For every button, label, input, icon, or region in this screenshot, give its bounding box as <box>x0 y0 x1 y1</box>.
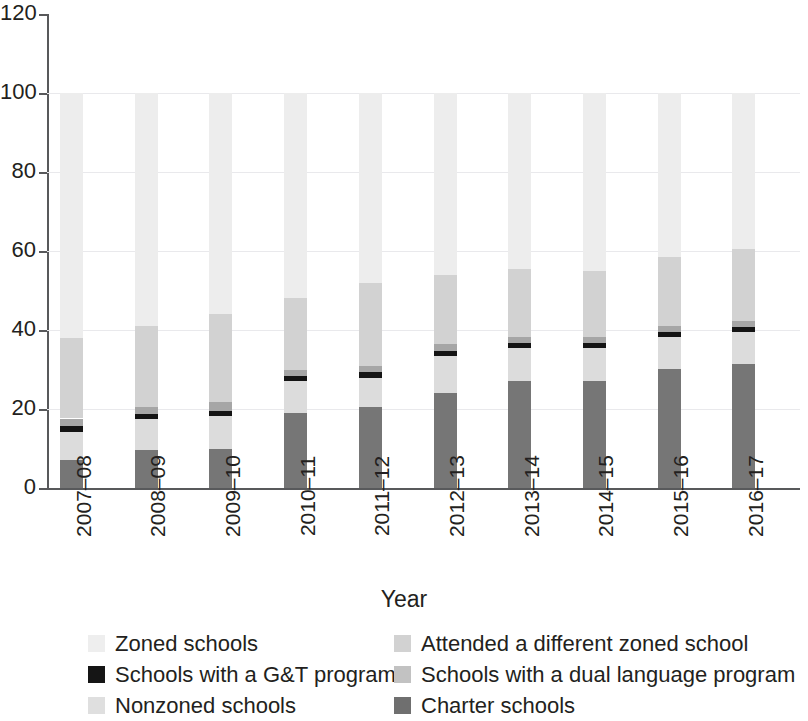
legend-label: Zoned schools <box>115 632 258 656</box>
bar-segment-attended <box>732 249 755 321</box>
x-axis-tick-label: 2010–11 <box>284 496 307 588</box>
x-axis-tick-text: 2008–09 <box>146 455 169 537</box>
legend-label: Attended a different zoned school <box>421 632 748 656</box>
bar-segment-nonzoned <box>583 348 606 381</box>
stacked-bar <box>583 93 606 488</box>
x-axis-tick-label: 2014–15 <box>583 496 606 588</box>
bar-segment-attended <box>583 271 606 337</box>
bar-segment-dual <box>135 407 158 414</box>
bar-segment-zoned <box>583 93 606 271</box>
stacked-bar <box>508 93 531 488</box>
legend-label: Nonzoned schools <box>115 694 296 718</box>
bar-segment-gt <box>209 411 232 416</box>
bar-segment-dual <box>508 337 531 343</box>
y-axis-tick-label: 0 <box>0 476 36 498</box>
x-axis-tick-text: 2015–16 <box>669 455 692 537</box>
bar-segment-attended <box>209 314 232 402</box>
stacked-bar <box>284 93 307 488</box>
x-axis-tick-label: 2009–10 <box>209 496 232 588</box>
x-axis-tick-label: 2011–12 <box>359 496 382 588</box>
bar-segment-zoned <box>284 93 307 298</box>
bar-segment-attended <box>135 326 158 407</box>
x-axis-tick-text: 2016–17 <box>744 455 767 537</box>
x-axis-tick-text: 2007–08 <box>72 455 95 537</box>
bar-segment-zoned <box>359 93 382 283</box>
bar-segment-zoned <box>658 93 681 257</box>
stacked-bar <box>135 93 158 488</box>
bar-segment-gt <box>658 332 681 337</box>
x-axis-tick-label: 2008–09 <box>135 496 158 588</box>
x-axis-tick-text: 2011–12 <box>370 456 393 536</box>
stacked-bar <box>60 93 83 488</box>
x-axis-tick-text: 2009–10 <box>221 455 244 537</box>
bar-segment-gt <box>732 327 755 332</box>
legend-item: Nonzoned schools <box>88 694 394 718</box>
bar-segment-zoned <box>508 93 531 269</box>
bar-segment-nonzoned <box>284 381 307 413</box>
chart-legend: Zoned schoolsAttended a different zoned … <box>88 628 798 721</box>
x-axis-title: Year <box>0 586 808 613</box>
bar-segment-nonzoned <box>658 337 681 369</box>
bar-segment-zoned <box>209 93 232 314</box>
legend-label: Schools with a G&T program <box>115 663 396 687</box>
x-axis-tick-label: 2015–16 <box>658 496 681 588</box>
chart-figure: 020406080100120 2007–082008–092009–10201… <box>0 0 808 721</box>
y-axis-tick-label: 80 <box>0 160 36 182</box>
bar-segment-attended <box>658 257 681 326</box>
legend-swatch-attended <box>394 635 411 652</box>
bar-segment-nonzoned <box>209 416 232 450</box>
bar-segment-gt <box>508 343 531 348</box>
legend-item: Schools with a G&T program <box>88 663 394 687</box>
legend-item: Zoned schools <box>88 632 394 656</box>
x-axis-tick-label: 2013–14 <box>508 496 531 588</box>
stacked-bar <box>359 93 382 488</box>
bar-segment-gt <box>583 343 606 348</box>
bar-segment-zoned <box>60 93 83 338</box>
y-axis-tick-mark <box>39 488 48 490</box>
bar-segment-gt <box>359 372 382 378</box>
bar-segment-gt <box>284 376 307 382</box>
bar-segment-dual <box>434 344 457 351</box>
legend-swatch-nonzoned <box>88 697 105 714</box>
bar-segment-dual <box>732 321 755 327</box>
x-axis-tick-text: 2013–14 <box>520 455 543 537</box>
x-axis-tick-label: 2012–13 <box>434 496 457 588</box>
gridline <box>47 172 800 173</box>
bar-segment-nonzoned <box>508 348 531 382</box>
bar-segment-attended <box>508 269 531 337</box>
x-axis-tick-text: 2014–15 <box>594 455 617 537</box>
legend-swatch-zoned <box>88 635 105 652</box>
legend-swatch-dual <box>394 666 411 683</box>
x-axis-tick-label: 2007–08 <box>60 496 83 588</box>
bar-segment-attended <box>359 283 382 367</box>
bar-segment-zoned <box>434 93 457 275</box>
bar-segment-nonzoned <box>135 419 158 451</box>
bar-segment-nonzoned <box>359 378 382 407</box>
bar-segment-nonzoned <box>732 332 755 364</box>
legend-swatch-charter <box>394 697 411 714</box>
legend-label: Schools with a dual language program <box>421 663 795 687</box>
y-axis-tick-label: 60 <box>0 239 36 261</box>
bar-segment-attended <box>284 298 307 369</box>
bar-segment-attended <box>434 275 457 344</box>
stacked-bar <box>658 93 681 488</box>
plot-area <box>47 14 800 488</box>
bar-segment-gt <box>135 414 158 419</box>
y-axis-tick-label: 40 <box>0 318 36 340</box>
legend-item: Attended a different zoned school <box>394 632 798 656</box>
legend-swatch-gt <box>88 666 105 683</box>
gridline <box>47 409 800 410</box>
y-axis-tick-label: 20 <box>0 397 36 419</box>
x-axis-tick-label: 2016–17 <box>732 496 755 588</box>
bar-segment-zoned <box>732 93 755 249</box>
y-axis-tick-labels: 020406080100120 <box>0 0 36 500</box>
y-axis-tick-label: 100 <box>0 81 36 103</box>
bar-segment-dual <box>658 326 681 332</box>
x-axis-tick-text: 2010–11 <box>296 456 319 536</box>
bar-segment-dual <box>583 337 606 343</box>
bar-segment-zoned <box>135 93 158 326</box>
legend-item: Charter schools <box>394 694 798 718</box>
bar-segment-attended <box>60 338 83 419</box>
bar-segment-gt <box>60 426 83 431</box>
bar-segment-dual <box>359 366 382 372</box>
